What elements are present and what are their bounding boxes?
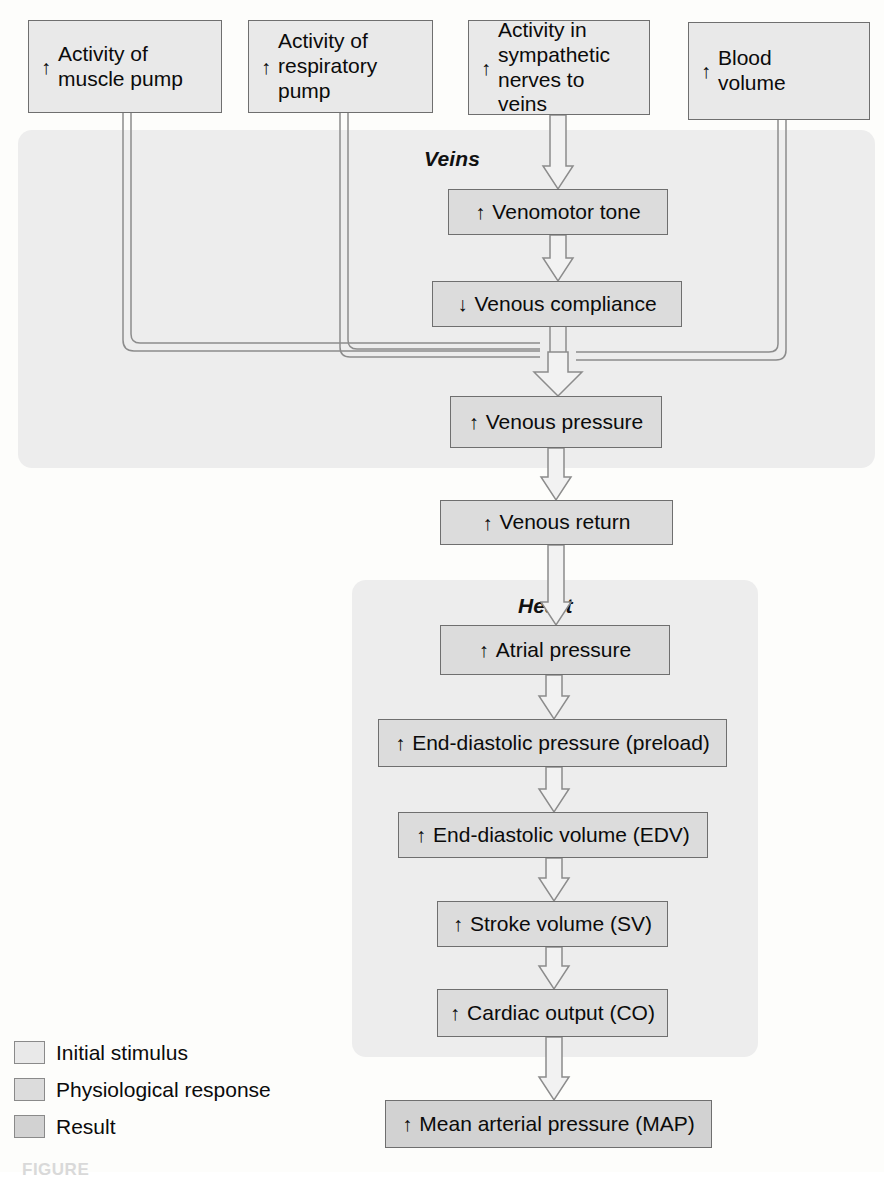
legend-item-physiological-response: Physiological response (14, 1071, 271, 1108)
node-label: End-diastolic pressure (preload) (412, 731, 710, 756)
legend-label: Result (56, 1115, 116, 1139)
up-arrow-icon: ↑ (450, 1003, 460, 1023)
node-label: Cardiac output (CO) (467, 1001, 655, 1026)
legend-swatch (14, 1115, 45, 1138)
up-arrow-icon: ↑ (41, 57, 51, 77)
node-label: Activity of muscle pump (58, 42, 183, 92)
up-arrow-icon: ↑ (395, 733, 405, 753)
node-stroke-volume[interactable]: ↑ Stroke volume (SV) (437, 901, 668, 947)
node-venomotor-tone[interactable]: ↑ Venomotor tone (448, 189, 668, 235)
legend-item-initial-stimulus: Initial stimulus (14, 1034, 271, 1071)
node-venous-pressure[interactable]: ↑ Venous pressure (450, 396, 662, 448)
legend-item-result: Result (14, 1108, 271, 1145)
node-label: Venous compliance (474, 292, 656, 317)
down-arrow-icon: ↓ (457, 294, 467, 314)
node-end-diastolic-volume[interactable]: ↑ End-diastolic volume (EDV) (398, 812, 708, 858)
node-venous-compliance[interactable]: ↓ Venous compliance (432, 281, 682, 327)
node-activity-sympathetic-nerves[interactable]: ↑ Activity in sympathetic nerves to vein… (468, 20, 650, 115)
node-activity-respiratory-pump[interactable]: ↑ Activity of respiratory pump (248, 20, 433, 113)
node-cardiac-output[interactable]: ↑ Cardiac output (CO) (437, 989, 668, 1037)
node-mean-arterial-pressure[interactable]: ↑ Mean arterial pressure (MAP) (385, 1100, 712, 1148)
node-label: End-diastolic volume (EDV) (433, 823, 690, 848)
node-blood-volume[interactable]: ↑ Blood volume (688, 22, 870, 120)
up-arrow-icon: ↑ (483, 513, 493, 533)
legend-label: Initial stimulus (56, 1041, 188, 1065)
node-label: Activity of respiratory pump (278, 29, 377, 103)
up-arrow-icon: ↑ (481, 58, 491, 78)
up-arrow-icon: ↑ (475, 202, 485, 222)
figure-caption: FIGURE (22, 1160, 89, 1179)
node-end-diastolic-pressure[interactable]: ↑ End-diastolic pressure (preload) (378, 719, 727, 767)
panel-label-veins: Veins (424, 147, 480, 171)
panel-label-heart: Heart (518, 594, 573, 618)
node-atrial-pressure[interactable]: ↑ Atrial pressure (440, 625, 670, 675)
up-arrow-icon: ↑ (453, 914, 463, 934)
up-arrow-icon: ↑ (402, 1114, 412, 1134)
legend: Initial stimulus Physiological response … (14, 1034, 271, 1145)
legend-label: Physiological response (56, 1078, 271, 1102)
node-label: Venomotor tone (492, 200, 640, 225)
legend-swatch (14, 1041, 45, 1064)
node-label: Stroke volume (SV) (470, 912, 652, 937)
node-label: Activity in sympathetic nerves to veins (498, 18, 637, 117)
node-venous-return[interactable]: ↑ Venous return (440, 500, 673, 545)
node-label: Mean arterial pressure (MAP) (419, 1112, 694, 1137)
legend-swatch (14, 1078, 45, 1101)
node-label: Venous pressure (486, 410, 644, 435)
up-arrow-icon: ↑ (261, 57, 271, 77)
node-label: Atrial pressure (496, 638, 631, 663)
node-label: Venous return (500, 510, 631, 535)
node-activity-muscle-pump[interactable]: ↑ Activity of muscle pump (28, 20, 222, 113)
up-arrow-icon: ↑ (469, 412, 479, 432)
node-label: Blood volume (718, 46, 786, 96)
up-arrow-icon: ↑ (479, 640, 489, 660)
up-arrow-icon: ↑ (701, 61, 711, 81)
up-arrow-icon: ↑ (416, 825, 426, 845)
